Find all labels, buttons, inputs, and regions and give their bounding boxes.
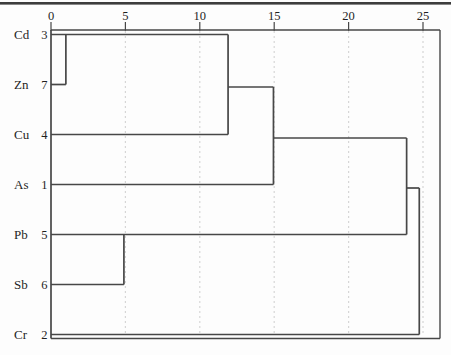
leaf-case-number-Pb: 5 bbox=[41, 228, 47, 242]
x-axis-tick-label-5: 5 bbox=[122, 9, 128, 23]
leaf-label-Pb: Pb bbox=[14, 227, 28, 242]
x-axis-tick-label-0: 0 bbox=[48, 9, 54, 23]
leaf-case-number-Sb: 6 bbox=[41, 278, 47, 292]
leaf-label-Cd: Cd bbox=[14, 27, 30, 42]
leaf-label-Cr: Cr bbox=[14, 327, 28, 342]
figure-top-rule bbox=[0, 2, 451, 5]
leaf-label-As: As bbox=[14, 177, 28, 192]
x-axis-tick-label-10: 10 bbox=[194, 9, 207, 23]
leaf-label-Zn: Zn bbox=[14, 77, 29, 92]
figure-background bbox=[0, 0, 451, 355]
leaf-label-Cu: Cu bbox=[14, 127, 30, 142]
x-axis-tick-label-25: 25 bbox=[417, 9, 430, 23]
leaf-case-number-Cu: 4 bbox=[41, 128, 48, 142]
x-axis-tick-label-20: 20 bbox=[342, 9, 355, 23]
leaf-case-number-Cd: 3 bbox=[41, 28, 47, 42]
leaf-case-number-As: 1 bbox=[41, 178, 47, 192]
x-axis-tick-label-15: 15 bbox=[268, 9, 281, 23]
dendrogram-plot: 0510152025Cd3Zn7Cu4As1Pb5Sb6Cr2 bbox=[0, 0, 451, 355]
leaf-case-number-Zn: 7 bbox=[41, 78, 47, 92]
dendrogram-figure: 0510152025Cd3Zn7Cu4As1Pb5Sb6Cr2 bbox=[0, 0, 451, 355]
leaf-label-Sb: Sb bbox=[14, 277, 28, 292]
leaf-case-number-Cr: 2 bbox=[41, 328, 47, 342]
